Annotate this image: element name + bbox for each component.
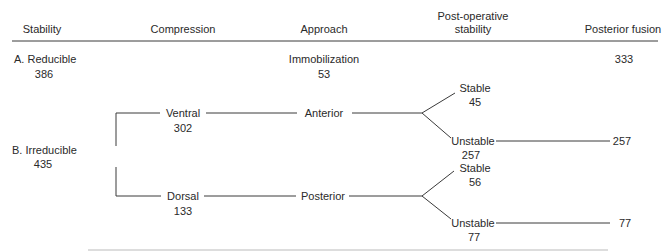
reducible-count: 386 [35,68,53,81]
line-posterior-unstable [422,196,451,219]
bracket-dorsal [116,167,161,196]
reducible-fusion-count: 333 [615,53,633,66]
ventral-count: 302 [174,122,192,135]
posterior-unstable-label: Unstable [451,217,494,230]
dorsal-label: Dorsal [167,190,199,203]
posterior-stable-label: Stable [459,162,490,175]
line-anterior-unstable [422,113,451,138]
immobilization-label: Immobilization [289,53,359,66]
posterior-unstable-count: 77 [468,231,480,244]
anterior-unstable-count: 257 [462,149,480,162]
posterior-label: Posterior [301,190,345,203]
ventral-label: Ventral [166,107,200,120]
dorsal-count: 133 [174,205,192,218]
header-post-operative-stability: stability [455,23,492,36]
header-approach: Approach [300,23,347,36]
header-compression: Compression [151,23,216,36]
treatment-flow-diagram: Stability Compression Approach Post-oper… [0,0,666,251]
header-posterior-fusion: Posterior fusion [585,23,661,36]
connector-lines [0,0,666,251]
ventral-fusion-count: 257 [613,135,631,148]
anterior-stable-count: 45 [469,96,481,109]
line-anterior-stable [422,93,455,113]
anterior-unstable-label: Unstable [451,135,494,148]
posterior-stable-count: 56 [469,176,481,189]
bracket-ventral [116,113,160,146]
irreducible-label: B. Irreducible [12,144,77,157]
anterior-stable-label: Stable [459,82,490,95]
line-posterior-stable [422,171,454,196]
immobilization-count: 53 [318,68,330,81]
header-post-operative: Post-operative [438,10,509,23]
reducible-label: A. Reducible [14,53,76,66]
anterior-label: Anterior [305,107,344,120]
header-stability: Stability [23,23,62,36]
dorsal-fusion-count: 77 [619,217,631,230]
irreducible-count: 435 [34,158,52,171]
